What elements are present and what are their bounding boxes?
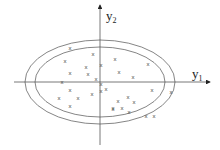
data-point: x [58, 95, 61, 101]
data-point: x [127, 94, 130, 100]
data-point: x [153, 113, 156, 119]
data-point: x [69, 70, 72, 76]
data-point: x [121, 105, 124, 111]
data-point: x [69, 87, 72, 93]
data-point: x [128, 109, 131, 115]
data-point: x [100, 81, 103, 87]
data-point: x [85, 64, 88, 70]
data-point: x [170, 89, 173, 95]
data-point: x [69, 45, 72, 51]
data-point: x [92, 51, 95, 57]
data-point: x [61, 79, 64, 85]
y2-axis-label: y2 [106, 8, 117, 25]
data-point: x [117, 98, 120, 104]
data-point: x [118, 69, 121, 75]
ellipse-scatter-diagram: y2 y1 xxxxxxxxxxxxxxxxxxxxxxxxxxxxxxxx [0, 0, 220, 150]
data-point: x [100, 88, 103, 94]
data-point: x [132, 74, 135, 80]
data-point: x [91, 91, 94, 97]
y1-axis-label: y1 [192, 66, 203, 83]
data-point: x [69, 103, 72, 109]
data-point: x [151, 87, 154, 93]
data-point: x [95, 76, 98, 82]
data-point: x [87, 71, 90, 77]
data-point: x [112, 106, 115, 112]
data-point: x [147, 61, 150, 67]
data-point: x [100, 62, 103, 68]
data-point: x [114, 56, 117, 62]
data-point: x [64, 58, 67, 64]
data-point: x [133, 99, 136, 105]
data-point: x [77, 95, 80, 101]
data-point: x [105, 86, 108, 92]
data-point: x [145, 113, 148, 119]
